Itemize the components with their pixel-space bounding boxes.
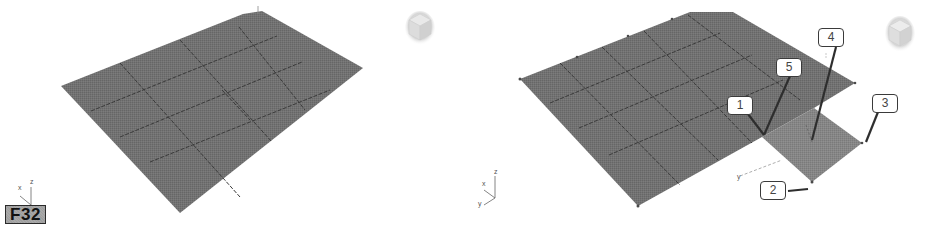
axis-y-label-right: y (478, 200, 482, 207)
callout-3: 3 (872, 94, 898, 113)
gizmo-y-label: y (737, 173, 741, 180)
viewcube-right[interactable] (885, 16, 915, 52)
axis-x-label-right: x (482, 180, 486, 187)
viewcube-left[interactable] (405, 11, 435, 45)
axis-x-label-left: x (18, 184, 22, 191)
axis-z-label-right: z (494, 168, 498, 175)
callout-5: 5 (776, 58, 802, 77)
callout-2: 2 (760, 181, 786, 200)
left-surface (61, 6, 363, 213)
figure-badge: F32 (5, 205, 46, 224)
axis-z-label-left: z (30, 178, 34, 185)
callout-4: 4 (818, 28, 844, 47)
callout-1: 1 (727, 96, 753, 115)
scene-drawing (0, 0, 926, 235)
